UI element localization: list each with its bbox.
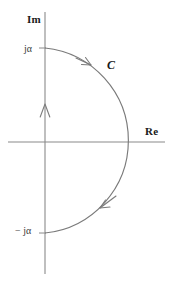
real-axis-label: Re xyxy=(145,126,158,137)
complex-plane-contour-figure: Im Re jα − jα C xyxy=(0,0,172,288)
imaginary-axis-label: Im xyxy=(27,14,41,25)
contour-label-c: C xyxy=(107,59,115,71)
upper-arc-direction-arrow-icon xyxy=(76,58,91,66)
tick-label-j-alpha: jα xyxy=(24,44,32,54)
contour-semicircle-path xyxy=(45,48,128,233)
tick-label-minus-j-alpha: − jα xyxy=(15,226,31,236)
